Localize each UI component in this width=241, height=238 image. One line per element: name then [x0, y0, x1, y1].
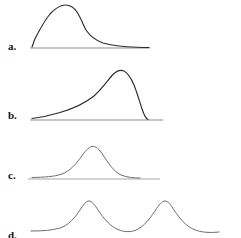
distribution-curve-d — [31, 201, 219, 232]
curve-d-bimodal — [0, 0, 241, 238]
distribution-shapes-figure: a. b. c. d. — [0, 0, 241, 238]
